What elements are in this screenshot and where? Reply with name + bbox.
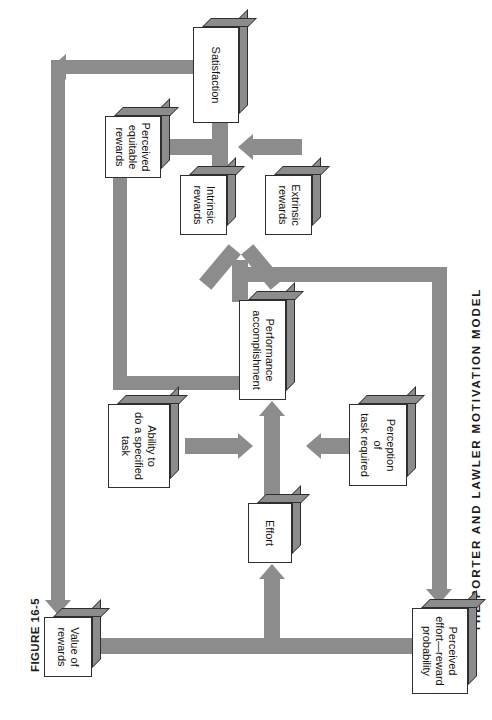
node-probability-line1: Perceived bbox=[446, 616, 459, 686]
node-satisfaction-top bbox=[202, 18, 257, 27]
node-perception-line2: of bbox=[372, 413, 385, 477]
node-satisfaction-line1: Satisfaction bbox=[210, 47, 222, 104]
edge-bottom-rail bbox=[100, 638, 432, 654]
node-ability-to-do-a-specified-task[interactable]: Ability to do a specified task bbox=[108, 404, 170, 488]
node-satisfaction-label: Satisfaction bbox=[210, 47, 223, 104]
edge-performance-to-probability-vertical bbox=[432, 267, 447, 594]
node-intrinsic-rewards[interactable]: Intrinsic rewards bbox=[180, 175, 227, 235]
node-ability-line3: task bbox=[120, 412, 133, 480]
node-ability-top bbox=[117, 395, 188, 404]
node-extrinsic-rewards-line1: Extrinsic bbox=[289, 184, 302, 226]
node-value-of-rewards-line2: rewards bbox=[55, 627, 68, 667]
node-perceived-equitable-rewards-line1: Perceived bbox=[139, 123, 152, 172]
node-intrinsic-rewards-label: Intrinsic rewards bbox=[191, 185, 217, 224]
node-probability-line2: effort—reward bbox=[434, 616, 447, 686]
node-effort[interactable]: Effort bbox=[248, 503, 292, 563]
node-performance-accomplishment-line1: Performance bbox=[263, 310, 276, 389]
node-probability-label: Perceived effort—reward probability bbox=[421, 616, 459, 686]
node-value-of-rewards-label: Value of rewards bbox=[55, 627, 81, 667]
figure-caption-label: THE PORTER AND LAWLER MOTIVATION MODEL bbox=[470, 288, 482, 632]
edge-performance-to-equitable-vertical bbox=[113, 165, 127, 390]
node-perception-of-task-required[interactable]: Perception of task required bbox=[349, 404, 407, 486]
node-perceived-equitable-rewards-top bbox=[114, 107, 179, 116]
node-performance-accomplishment-top bbox=[248, 291, 304, 300]
node-performance-accomplishment-line2: accomplishment bbox=[250, 310, 263, 389]
node-probability-top bbox=[421, 599, 486, 608]
node-perception-top bbox=[358, 395, 425, 404]
node-effort-label: Effort bbox=[264, 520, 277, 546]
node-satisfaction[interactable]: Satisfaction bbox=[193, 27, 239, 123]
edge-performance-to-probability-horizontal bbox=[248, 267, 446, 282]
node-perception-label: Perception of task required bbox=[359, 413, 397, 477]
edge-effort-to-performance-head bbox=[259, 401, 285, 416]
node-extrinsic-rewards-line2: rewards bbox=[276, 184, 289, 226]
node-performance-accomplishment-label: Performance accomplishment bbox=[250, 310, 276, 389]
edge-effort-to-performance-bar bbox=[264, 415, 280, 497]
edge-equitable-to-satisfaction-bar bbox=[166, 139, 214, 155]
edge-ability-to-performance-bar bbox=[185, 438, 239, 454]
node-perception-line1: Perception bbox=[384, 413, 397, 477]
node-performance-accomplishment[interactable]: Performance accomplishment bbox=[239, 300, 286, 400]
node-perception-line3: task required bbox=[359, 413, 372, 477]
node-effort-top bbox=[257, 494, 310, 503]
node-extrinsic-rewards-label: Extrinsic rewards bbox=[276, 184, 302, 226]
edge-bottom-rail-to-effort-head bbox=[259, 564, 285, 579]
edge-extrinsic-to-satisfaction-bar bbox=[252, 139, 302, 155]
node-ability-label: Ability to do a specified task bbox=[120, 412, 158, 480]
node-intrinsic-rewards-top bbox=[189, 166, 245, 175]
node-extrinsic-rewards[interactable]: Extrinsic rewards bbox=[265, 175, 312, 235]
edge-perception-to-performance-head bbox=[306, 433, 321, 459]
node-probability-line3: probability bbox=[421, 616, 434, 686]
node-perceived-equitable-rewards-line2: equitable bbox=[127, 123, 140, 172]
node-value-of-rewards[interactable]: Value of rewards bbox=[44, 617, 92, 677]
node-ability-line2: do a specified bbox=[133, 412, 146, 480]
edge-satisfaction-to-value-horizontal bbox=[66, 60, 202, 74]
node-effort-line1: Effort bbox=[264, 520, 276, 546]
node-intrinsic-rewards-line2: rewards bbox=[191, 185, 204, 224]
node-ability-line1: Ability to bbox=[145, 412, 158, 480]
node-perceived-equitable-rewards-label: Perceived equitable rewards bbox=[114, 123, 152, 172]
edge-extrinsic-to-satisfaction-head bbox=[238, 134, 253, 160]
node-perceived-equitable-rewards-line3: rewards bbox=[114, 123, 127, 172]
node-intrinsic-rewards-line1: Intrinsic bbox=[204, 185, 217, 224]
edge-ability-to-performance-head bbox=[238, 433, 253, 459]
node-value-of-rewards-top bbox=[53, 608, 110, 617]
figure-number-label: FIGURE 16-5 bbox=[29, 598, 41, 672]
node-perceived-effort-reward-probability[interactable]: Perceived effort—reward probability bbox=[412, 608, 468, 694]
edge-satisfaction-to-value-vertical bbox=[51, 60, 65, 605]
node-value-of-rewards-line1: Value of bbox=[68, 627, 81, 667]
node-extrinsic-rewards-top bbox=[274, 166, 330, 175]
node-perceived-equitable-rewards[interactable]: Perceived equitable rewards bbox=[105, 116, 161, 178]
edge-bottom-rail-to-effort-stem bbox=[264, 578, 280, 640]
figure-container: FIGURE 16-5 THE PORTER AND LAWLER MOTIVA… bbox=[0, 0, 492, 720]
fork-stem bbox=[232, 260, 248, 302]
